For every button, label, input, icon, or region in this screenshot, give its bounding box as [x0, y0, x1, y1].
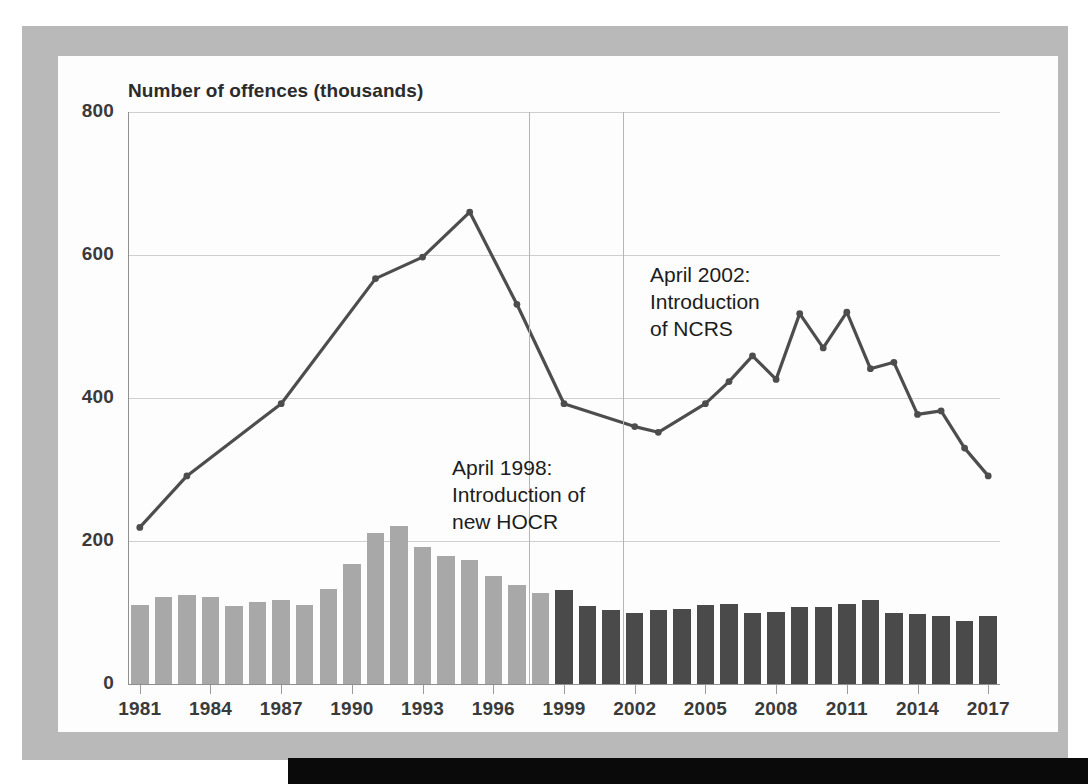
- x-tick-mark-2005: [705, 685, 706, 694]
- y-tick-label-200: 200: [54, 529, 114, 551]
- line-marker-1983: [184, 473, 191, 480]
- x-tick-mark-1987: [281, 685, 282, 694]
- line-marker-2006: [726, 378, 733, 385]
- x-tick-mark-1981: [140, 685, 141, 694]
- marker-line-2002: [623, 112, 624, 684]
- y-tick-label-0: 0: [54, 672, 114, 694]
- x-tick-label-2008: 2008: [741, 698, 811, 720]
- y-tick-label-600: 600: [54, 243, 114, 265]
- x-tick-mark-1990: [352, 685, 353, 694]
- offences-chart: Number of offences (thousands) 020040060…: [0, 0, 1088, 784]
- x-tick-label-2002: 2002: [600, 698, 670, 720]
- line-marker-1999: [561, 400, 568, 407]
- x-tick-label-1996: 1996: [458, 698, 528, 720]
- x-tick-label-1984: 1984: [175, 698, 245, 720]
- line-marker-1995: [466, 209, 473, 216]
- line-marker-1987: [278, 400, 285, 407]
- line-marker-1981: [136, 524, 143, 531]
- x-tick-label-2017: 2017: [953, 698, 1023, 720]
- x-tick-label-2011: 2011: [812, 698, 882, 720]
- annotation-ncrs: April 2002: Introduction of NCRS: [650, 262, 760, 343]
- marker-line-1998: [529, 112, 530, 684]
- x-tick-mark-1999: [564, 685, 565, 694]
- x-tick-label-1987: 1987: [246, 698, 316, 720]
- line-marker-1991: [372, 275, 379, 282]
- line-marker-2011: [843, 309, 850, 316]
- line-marker-1993: [419, 254, 426, 261]
- x-tick-mark-2011: [847, 685, 848, 694]
- x-tick-mark-2008: [776, 685, 777, 694]
- line-marker-2013: [891, 359, 898, 366]
- x-tick-label-1981: 1981: [105, 698, 175, 720]
- bottom-black-band: [288, 758, 1088, 784]
- line-series-layer: [0, 0, 1088, 784]
- y-tick-label-800: 800: [54, 100, 114, 122]
- x-tick-mark-1984: [210, 685, 211, 694]
- x-tick-label-1990: 1990: [317, 698, 387, 720]
- line-marker-2017: [985, 473, 992, 480]
- page-root: Number of offences (thousands) 020040060…: [0, 0, 1088, 784]
- line-marker-2014: [914, 411, 921, 418]
- x-tick-label-2005: 2005: [670, 698, 740, 720]
- annotation-hocr: April 1998: Introduction of new HOCR: [452, 455, 585, 536]
- line-marker-2012: [867, 365, 874, 372]
- line-marker-1997: [514, 301, 521, 308]
- line-marker-2007: [749, 352, 756, 359]
- x-tick-mark-1993: [423, 685, 424, 694]
- x-tick-mark-2014: [918, 685, 919, 694]
- line-marker-2016: [961, 445, 968, 452]
- x-tick-mark-2017: [988, 685, 989, 694]
- y-axis-spine: [128, 112, 129, 684]
- x-tick-label-2014: 2014: [883, 698, 953, 720]
- x-tick-mark-2002: [635, 685, 636, 694]
- line-marker-2005: [702, 400, 709, 407]
- y-tick-label-400: 400: [54, 386, 114, 408]
- x-tick-label-1993: 1993: [388, 698, 458, 720]
- line-marker-2008: [773, 376, 780, 383]
- line-marker-2010: [820, 345, 827, 352]
- x-tick-label-1999: 1999: [529, 698, 599, 720]
- line-marker-2009: [796, 310, 803, 317]
- line-marker-2015: [938, 408, 945, 415]
- line-marker-2003: [655, 429, 662, 436]
- x-tick-mark-1996: [493, 685, 494, 694]
- line-marker-2002: [631, 423, 638, 430]
